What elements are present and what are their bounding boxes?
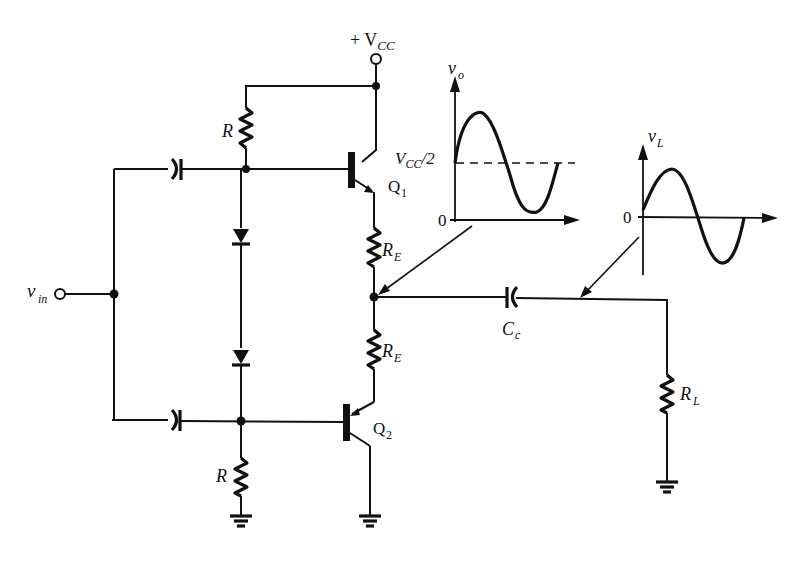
transistor-q2-pnp: Q 2 [343,402,392,446]
graph-vo: v o 0 VCC/2 [395,58,580,230]
diode-d2 [232,350,250,365]
svg-text:0: 0 [438,211,447,230]
vcc-label: + VCC [350,30,395,53]
resistor-rl: R L [661,375,700,413]
svg-text:+ VCC: + VCC [350,30,395,53]
svg-text:Q: Q [388,177,400,196]
svg-text:c: c [515,328,521,342]
vin-label: v in [27,280,47,306]
svg-text:L: L [656,136,664,150]
circuit-diagram: + VCC R Q 1 R E R E [0,0,802,563]
svg-text:L: L [692,394,700,408]
svg-text:2: 2 [386,428,392,442]
ground-symbol-bias [230,516,252,526]
svg-text:E: E [393,250,402,264]
svg-text:Q: Q [373,419,385,438]
vin-terminal[interactable] [55,289,65,299]
svg-text:R: R [679,384,691,404]
resistor-r-top: R [221,108,252,148]
diode-d1 [232,229,250,244]
svg-text:1: 1 [401,186,407,200]
resistor-re-bottom: R E [368,330,402,369]
resistor-r-bottom: R [215,458,247,496]
vcc-terminal [371,54,381,64]
capacitor-input-bottom [172,410,180,431]
arrow-vl-to-load [580,237,639,298]
svg-text:R: R [215,466,227,486]
svg-text:VCC/2: VCC/2 [395,149,435,171]
capacitor-input-top [172,159,181,180]
svg-text:R: R [381,240,393,260]
svg-text:v: v [27,280,36,301]
resistor-re-top: R E [368,228,402,267]
svg-text:o: o [458,68,464,82]
svg-text:v: v [648,126,656,146]
svg-text:E: E [393,351,402,365]
capacitor-cc: C c [502,287,521,342]
svg-text:0: 0 [623,208,632,227]
graph-vl: v L 0 [623,126,778,275]
svg-text:in: in [38,292,47,306]
arrow-vo-to-node [378,226,472,295]
svg-text:R: R [381,341,393,361]
ground-symbol-q2 [359,516,381,526]
svg-text:R: R [221,121,233,141]
svg-text:v: v [448,58,456,78]
svg-text:C: C [502,319,515,339]
ground-symbol-load [656,482,678,492]
